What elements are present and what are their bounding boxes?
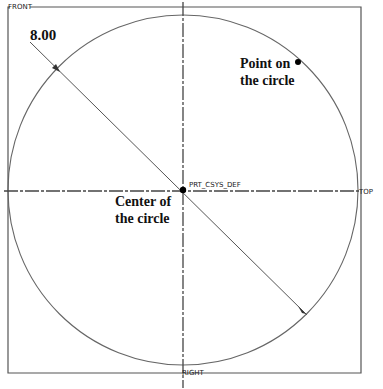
circle-point[interactable] bbox=[295, 59, 301, 65]
sketch-canvas: FRONT TOP RIGHT PRT_CSYS_DEF 8.00 Point … bbox=[0, 0, 383, 389]
dimension-arrow-lower bbox=[298, 306, 306, 314]
top-datum-label: TOP bbox=[358, 188, 373, 196]
center-point[interactable] bbox=[180, 187, 186, 193]
point-callout-line2: the circle bbox=[240, 73, 295, 88]
right-datum-label: RIGHT bbox=[182, 369, 205, 377]
center-callout-line2: the circle bbox=[115, 211, 170, 226]
center-callout-line1: Center of bbox=[115, 194, 171, 209]
csys-label: PRT_CSYS_DEF bbox=[189, 181, 241, 189]
diameter-dimension-value[interactable]: 8.00 bbox=[30, 27, 56, 43]
front-datum-label: FRONT bbox=[8, 3, 33, 11]
point-callout-line1: Point on bbox=[240, 56, 290, 71]
